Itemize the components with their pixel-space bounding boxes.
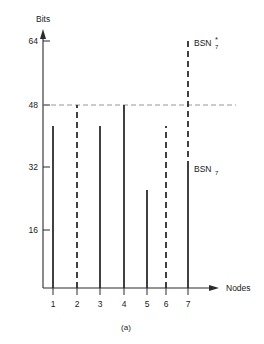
y-tick-label-32: 32 [29,162,39,172]
figure-caption: (a) [121,323,131,332]
bars-group [53,41,188,288]
y-axis-group [40,29,46,288]
y-tick-marks [43,41,50,230]
annotation-bsn7-base: BSN [194,164,211,174]
annotation-bsn7: BSN 7 [194,164,219,176]
x-tick-marks [53,288,188,295]
bar-chart: 64 48 32 16 Bits 1 2 3 4 5 6 7 [0,0,264,344]
y-axis-title: Bits [36,14,50,24]
x-tick-label-3: 3 [98,299,103,309]
annotation-bsn7-star-superscript: * [215,35,218,44]
x-tick-labels: 1 2 3 4 5 6 7 [51,299,191,309]
x-tick-label-5: 5 [145,299,150,309]
x-tick-label-2: 2 [75,299,80,309]
x-tick-label-1: 1 [51,299,56,309]
y-tick-labels: 64 48 32 16 [29,36,39,235]
annotation-bsn7-subscript: 7 [215,170,219,176]
x-tick-label-7: 7 [186,299,191,309]
x-axis-arrowhead [209,285,219,291]
y-tick-label-16: 16 [29,225,39,235]
x-tick-label-6: 6 [164,299,169,309]
annotation-bsn7-star-base: BSN [194,38,211,48]
annotation-bsn7-star-subscript: 7 [215,44,219,50]
annotation-bsn7-star: BSN 7 * [194,35,219,50]
y-tick-label-48: 48 [29,100,39,110]
x-tick-label-4: 4 [122,299,127,309]
y-axis-arrowhead [40,29,46,39]
y-tick-label-64: 64 [29,36,39,46]
x-axis-title: Nodes [226,283,251,293]
x-axis-group [43,285,219,291]
figure-container: 64 48 32 16 Bits 1 2 3 4 5 6 7 [0,0,264,344]
